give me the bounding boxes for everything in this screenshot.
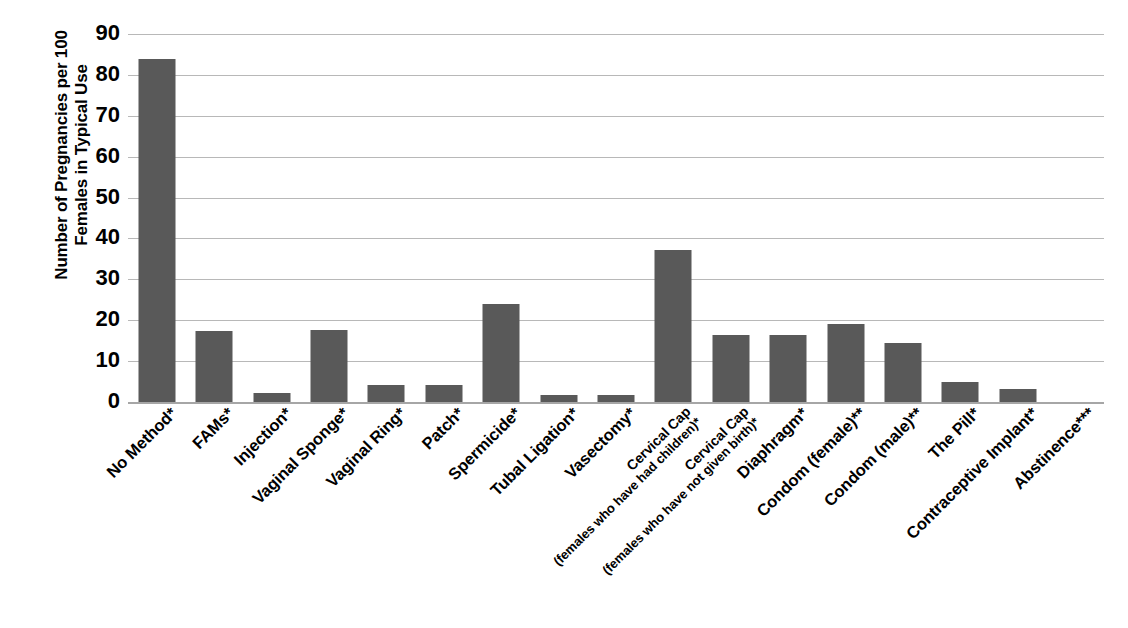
chart-title	[0, 0, 1128, 2]
y-tick-label: 0	[58, 390, 120, 412]
x-tick-label: FAMs*	[189, 404, 237, 452]
bar-slot	[645, 34, 702, 402]
bar[interactable]	[138, 59, 175, 402]
bar-slot	[874, 34, 931, 402]
bar[interactable]	[770, 335, 807, 402]
y-axis-title-line-2: Females in Typical Use	[72, 64, 92, 245]
bar-slot	[932, 34, 989, 402]
y-tick-label: 10	[58, 349, 120, 371]
bar-slot	[587, 34, 644, 402]
bar-slot	[1047, 34, 1104, 402]
bar-slot	[358, 34, 415, 402]
x-tick-label: Condom (female)**	[752, 404, 868, 520]
x-tick-label: Vaginal Sponge*	[249, 404, 352, 507]
bar[interactable]	[655, 250, 692, 402]
bar-slot	[817, 34, 874, 402]
bar-slot	[530, 34, 587, 402]
bar-slot	[243, 34, 300, 402]
bar[interactable]	[942, 382, 979, 402]
bar-slot	[185, 34, 242, 402]
bar[interactable]	[827, 324, 864, 402]
bar[interactable]	[540, 395, 577, 402]
bar[interactable]	[425, 385, 462, 402]
x-tick-label: Patch*	[418, 404, 467, 453]
bar[interactable]	[368, 385, 405, 402]
bar[interactable]	[712, 335, 749, 402]
bar-slot	[702, 34, 759, 402]
bar[interactable]	[253, 393, 290, 402]
bar[interactable]	[310, 330, 347, 402]
bar-series	[128, 34, 1104, 402]
x-tick-label: The Pill*	[925, 404, 983, 462]
bar-slot	[472, 34, 529, 402]
x-tick-label: Condom (male)**	[820, 404, 926, 510]
y-axis-title-line-1: Number of Pregnancies per 100	[52, 30, 72, 279]
y-axis-title: Number of Pregnancies per 100 Females in…	[44, 0, 100, 325]
bar-slot	[300, 34, 357, 402]
bar-slot	[128, 34, 185, 402]
bar-slot	[415, 34, 472, 402]
bar-slot	[989, 34, 1046, 402]
bar[interactable]	[597, 395, 634, 402]
bar[interactable]	[999, 389, 1036, 402]
bar-chart: Number of Pregnancies per 100 Females in…	[0, 0, 1128, 628]
bar[interactable]	[483, 304, 520, 402]
x-tick-label: No Method*	[103, 404, 180, 481]
bar[interactable]	[885, 343, 922, 402]
plot-area	[128, 34, 1104, 402]
x-axis-labels: No Method*FAMs*Injection*Vaginal Sponge*…	[128, 404, 1104, 628]
bar-slot	[760, 34, 817, 402]
bar[interactable]	[196, 331, 233, 402]
